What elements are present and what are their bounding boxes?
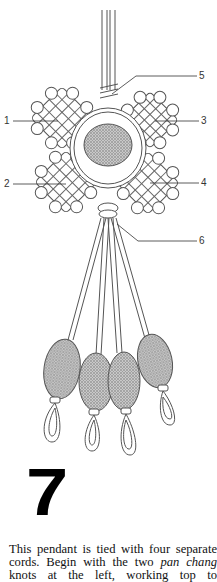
center-bead xyxy=(84,124,132,166)
callout-5: 5 xyxy=(199,71,205,81)
callout-4: 4 xyxy=(201,178,207,188)
step-number: 7 xyxy=(26,462,68,522)
tassel-beads xyxy=(40,331,177,411)
caption-emphasis: pan chang xyxy=(160,555,217,569)
callout-3: 3 xyxy=(201,116,207,126)
callout-6: 6 xyxy=(199,236,205,246)
caption-text: This pendant is tied with four separate … xyxy=(9,543,217,582)
knot-diagram xyxy=(0,0,217,470)
pendant-illustration: 1 2 3 4 5 6 xyxy=(0,0,217,470)
caption-continuation: knots at the left, working top to xyxy=(9,568,217,582)
tassel-cords xyxy=(68,218,151,355)
callout-1: 1 xyxy=(4,116,10,126)
callout-2: 2 xyxy=(4,179,10,189)
